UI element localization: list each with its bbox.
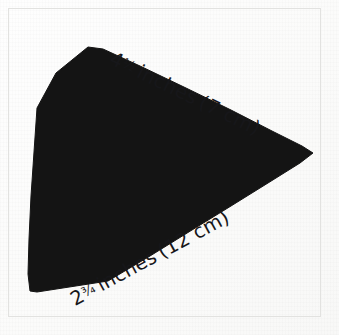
- shape-layer: [0, 0, 339, 335]
- triangle-figure: 4½inches(7 cm) 2¾inches(12 cm): [0, 0, 339, 335]
- triangle-svg: [0, 0, 339, 335]
